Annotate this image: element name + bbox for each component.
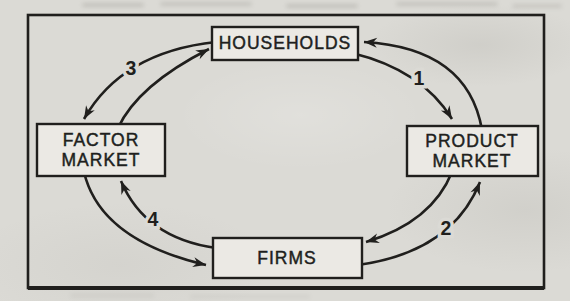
arrow-households-to-product-market xyxy=(352,53,452,119)
product-market-label-line1: PRODUCT xyxy=(425,131,519,151)
factor-market-label-line1: FACTOR xyxy=(63,130,140,150)
scanned-diagram-page: HOUSEHOLDS PRODUCT MARKET FIRMS FACTOR M… xyxy=(0,0,570,301)
households-label: HOUSEHOLDS xyxy=(219,33,352,53)
flow-number-4: 4 xyxy=(148,208,159,230)
flow-numbers: 1 2 3 4 xyxy=(126,57,452,239)
flow-number-1: 1 xyxy=(414,67,425,89)
arrow-product-market-to-firms xyxy=(366,172,452,242)
flow-number-3: 3 xyxy=(126,57,137,79)
arrow-factor-market-to-firms xyxy=(84,172,206,265)
product-market-label-line2: MARKET xyxy=(433,151,512,171)
arrow-households-to-factor-market xyxy=(84,42,216,119)
flow-number-2: 2 xyxy=(441,217,452,239)
factor-market-label-line2: MARKET xyxy=(62,150,141,170)
nodes: HOUSEHOLDS PRODUCT MARKET FIRMS FACTOR M… xyxy=(37,27,538,278)
firms-label: FIRMS xyxy=(257,248,316,268)
circular-flow-svg: HOUSEHOLDS PRODUCT MARKET FIRMS FACTOR M… xyxy=(0,0,570,301)
arrow-firms-to-product-market xyxy=(358,182,480,265)
